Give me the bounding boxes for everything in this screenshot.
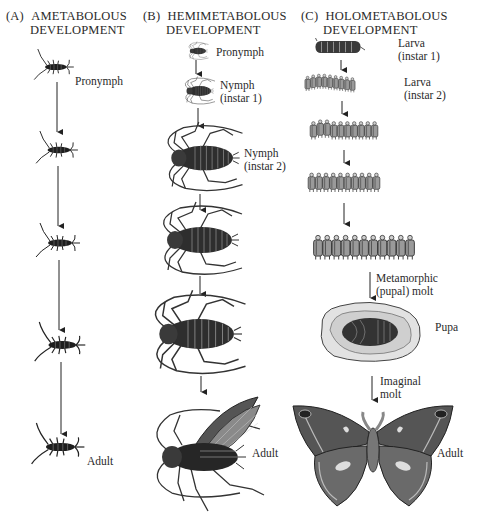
cockroach-nymph-instar-3 [164, 202, 242, 274]
cockroach-nymph-instar-1 [185, 77, 215, 104]
silverfish-instar-1 [36, 131, 78, 163]
pupa-cocoon [321, 302, 420, 361]
cockroach-pronymph [189, 42, 209, 60]
moth-adult [293, 406, 453, 506]
caterpillar-instar-3 [310, 120, 378, 140]
silverfish-instar-2 [36, 223, 80, 257]
illustration-canvas [0, 0, 477, 517]
cockroach-nymph-instar-2 [168, 122, 242, 191]
silverfish-pronymph [34, 49, 74, 80]
caterpillar-instar-1 [316, 38, 366, 53]
column-b-stages [155, 42, 264, 512]
silverfish-instar-3 [35, 322, 86, 361]
column-c-stages [293, 38, 453, 506]
caterpillar-instar-4 [308, 173, 380, 192]
caterpillar-instar-2 [305, 74, 355, 92]
cockroach-adult [157, 397, 264, 511]
silverfish-adult [32, 423, 85, 464]
cockroach-nymph-instar-4 [155, 290, 245, 373]
column-a-stages [32, 49, 86, 464]
caterpillar-instar-5 [314, 235, 415, 259]
